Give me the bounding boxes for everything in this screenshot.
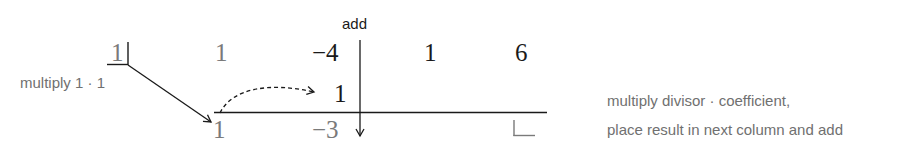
remainder-corner xyxy=(513,120,535,136)
coefficient-2: −4 xyxy=(312,40,339,65)
coefficient-1: 1 xyxy=(215,40,228,65)
multiply-arrow xyxy=(128,65,211,122)
coefficient-3: 1 xyxy=(424,40,437,65)
explanation-line-1: multiply divisor · coefficient, xyxy=(607,93,790,108)
coefficient-4: 6 xyxy=(515,40,528,65)
synthetic-division-diagram: add 1 1 −4 1 6 1 1 −3 multiply 1 · 1 mul… xyxy=(0,0,922,156)
carry-dashed-arrow xyxy=(220,87,314,113)
result-1: 1 xyxy=(213,117,226,142)
multiply-step-note: multiply 1 · 1 xyxy=(20,75,105,90)
product-value: 1 xyxy=(334,81,347,106)
explanation-line-2: place result in next column and add xyxy=(607,122,843,137)
result-2: −3 xyxy=(312,117,339,142)
add-label: add xyxy=(342,16,367,31)
divisor-value: 1 xyxy=(111,40,124,65)
